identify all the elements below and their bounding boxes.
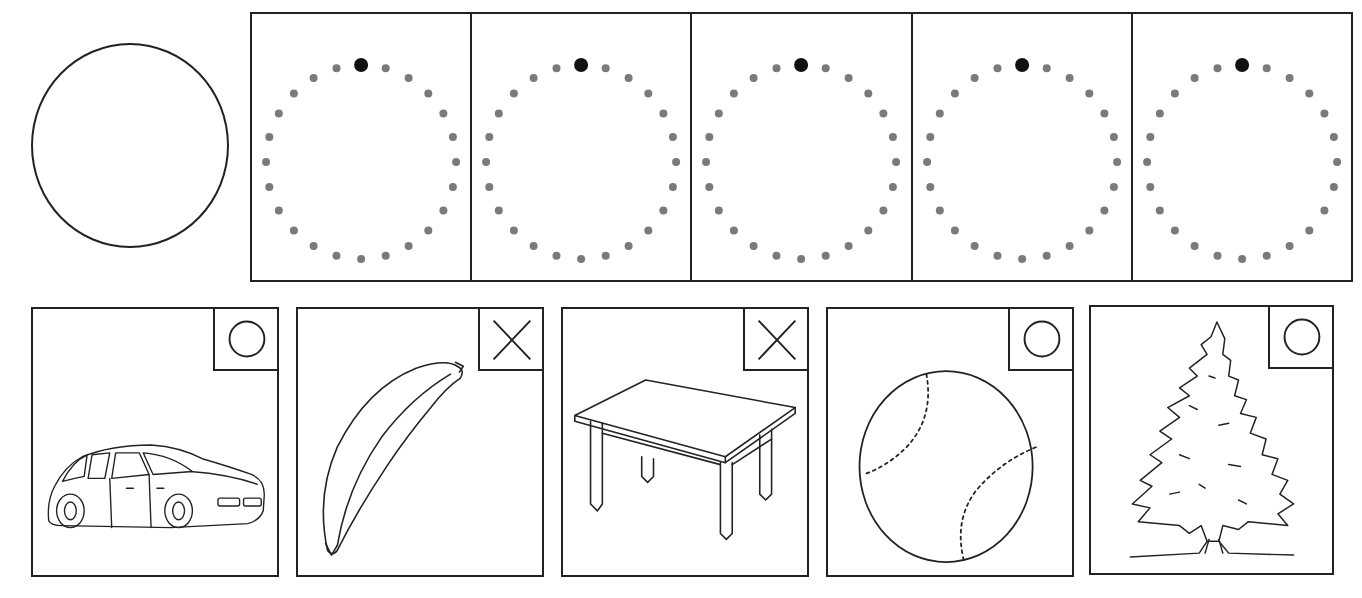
answer-mark-x[interactable] — [743, 309, 807, 371]
answer-mark-o[interactable] — [1268, 307, 1332, 369]
picture-card-baseball — [826, 307, 1074, 577]
picture-card-tree — [1089, 305, 1334, 575]
dotted-circle-icon — [1133, 14, 1351, 280]
cross-mark-icon — [745, 309, 807, 369]
tracing-panel-5[interactable] — [1133, 14, 1351, 280]
picture-card-table — [561, 307, 809, 577]
dotted-circle-icon — [692, 14, 910, 280]
answer-mark-o[interactable] — [213, 309, 277, 371]
circle-mark-icon — [215, 309, 277, 369]
dotted-circle-icon — [913, 14, 1131, 280]
picture-card-banana — [296, 307, 544, 577]
cross-mark-icon — [480, 309, 542, 369]
picture-card-car — [31, 307, 279, 577]
tracing-panel-3[interactable] — [692, 14, 912, 280]
dotted-circle-icon — [252, 14, 470, 280]
circle-mark-icon — [1010, 309, 1072, 369]
answer-mark-o[interactable] — [1008, 309, 1072, 371]
circle-mark-icon — [1270, 307, 1332, 367]
tracing-panel-4[interactable] — [913, 14, 1133, 280]
tracing-panel-1[interactable] — [252, 14, 472, 280]
tracing-panel-2[interactable] — [472, 14, 692, 280]
tracing-panels — [250, 12, 1353, 282]
dotted-circle-icon — [472, 14, 690, 280]
example-circle-shape — [31, 43, 229, 248]
answer-mark-x[interactable] — [478, 309, 542, 371]
